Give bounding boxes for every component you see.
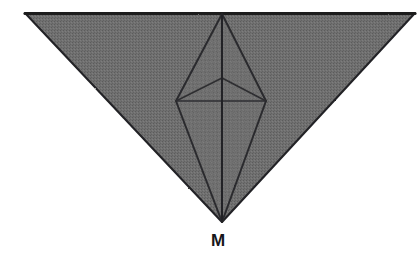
vertex-label-m: M	[211, 232, 226, 249]
geometry-figure	[0, 0, 419, 280]
